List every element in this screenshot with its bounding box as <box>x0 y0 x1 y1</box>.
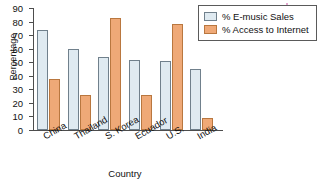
legend-item-access-to-internet: % Access to Internet <box>204 23 309 36</box>
y-axis-tick-label: 10 <box>12 111 23 122</box>
legend-label: % Access to Internet <box>222 24 309 35</box>
y-axis-tick-label: 70 <box>12 30 23 41</box>
bar-group <box>125 8 156 130</box>
legend-item-e-music-sales: % E-music Sales <box>204 10 309 23</box>
y-axis-tick-label: 30 <box>12 84 23 95</box>
bar-group <box>94 8 125 130</box>
y-axis-tick-label: 90 <box>12 3 23 14</box>
y-axis-tick-label: 60 <box>12 43 23 54</box>
scan-artifact-speck <box>286 3 288 5</box>
bar <box>110 18 121 131</box>
y-axis-tick-label: 80 <box>12 16 23 27</box>
bar <box>172 24 183 130</box>
legend-label: % E-music Sales <box>222 11 294 22</box>
bar-groups <box>33 8 217 130</box>
bar-group <box>33 8 64 130</box>
y-axis-tick-label: 20 <box>12 97 23 108</box>
bar <box>37 30 48 130</box>
y-axis-tick-label: 50 <box>12 57 23 68</box>
bar-chart: Percentage 0102030405060708090 ChinaThai… <box>0 0 330 184</box>
legend: % E-music Sales % Access to Internet <box>198 5 317 41</box>
bar-group <box>64 8 95 130</box>
orange-swatch-icon <box>204 25 217 34</box>
x-axis-title: Country <box>33 168 217 179</box>
bar-group <box>156 8 187 130</box>
x-axis-category-labels: ChinaThailandS. KoreaEcuadorU.S.India <box>33 132 217 166</box>
y-axis-tick-label: 40 <box>12 70 23 81</box>
y-axis-tick: 0 <box>29 130 33 131</box>
bar <box>68 49 79 130</box>
y-axis-tick-label: 0 <box>18 125 23 136</box>
blue-swatch-icon <box>204 12 217 21</box>
plot-area: 0102030405060708090 <box>33 8 217 130</box>
bar <box>190 69 201 130</box>
